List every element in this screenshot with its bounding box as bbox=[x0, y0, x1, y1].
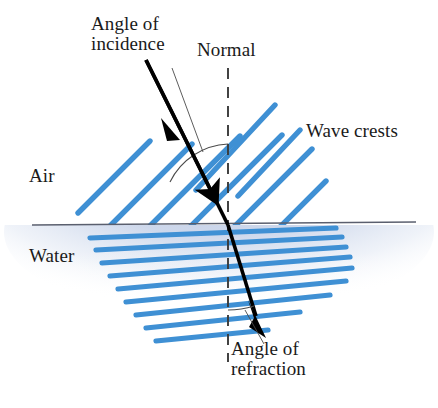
label-water: Water bbox=[29, 246, 74, 266]
incident-ray-segment bbox=[146, 60, 228, 225]
label-angle-of-incidence: Angle of incidence bbox=[91, 14, 165, 54]
water-region bbox=[0, 146, 438, 408]
air-wave-crests-upper bbox=[196, 105, 300, 196]
refraction-diagram: Angle of incidence Normal Wave crests Ai… bbox=[0, 0, 438, 408]
water-surface-line bbox=[32, 222, 416, 225]
diagram-canvas bbox=[0, 0, 438, 408]
label-wave-crests: Wave crests bbox=[306, 121, 398, 141]
air-crest bbox=[150, 136, 240, 226]
air-crest bbox=[280, 181, 326, 227]
label-normal: Normal bbox=[197, 40, 256, 60]
label-air: Air bbox=[29, 166, 55, 186]
air-crest bbox=[78, 141, 150, 213]
air-crest bbox=[110, 144, 192, 226]
air-crest bbox=[238, 130, 300, 196]
label-angle-of-refraction: Angle of refraction bbox=[231, 339, 306, 379]
